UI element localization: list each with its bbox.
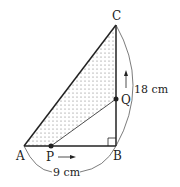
label-c: C <box>112 9 121 23</box>
label-bc-length: 18 cm <box>134 83 169 96</box>
label-a: A <box>15 149 25 163</box>
label-q: Q <box>121 93 131 107</box>
label-p: P <box>46 150 54 164</box>
arc-bc <box>116 25 133 146</box>
label-ab-length: 9 cm <box>53 166 81 179</box>
label-b: B <box>113 149 122 163</box>
point-q <box>114 97 119 102</box>
arrow-up-icon <box>124 70 128 76</box>
point-p <box>49 144 54 149</box>
right-angle-mark <box>108 138 116 146</box>
geometry-diagram: A B C P Q 18 cm 9 cm <box>0 0 180 187</box>
arrow-right-icon <box>70 155 76 159</box>
